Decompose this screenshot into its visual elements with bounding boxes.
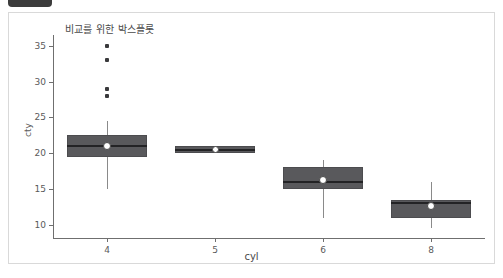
y-axis-title: cty	[23, 123, 33, 137]
x-tick-label: 4	[104, 245, 110, 255]
boxplot-box[interactable]	[53, 35, 485, 239]
y-tick-label: 15	[35, 184, 46, 194]
whisker-upper	[431, 182, 432, 200]
y-tick-label: 30	[35, 77, 46, 87]
y-tick-label: 20	[35, 148, 46, 158]
x-tick-label: 5	[212, 245, 218, 255]
plot-area: 101520253035 4568	[53, 35, 485, 239]
y-tick-label: 35	[35, 41, 46, 51]
x-axis-title: cyl	[9, 251, 494, 262]
whisker-lower	[431, 218, 432, 229]
chart-screenshot: 비교를 위한 박스플롯 cty cyl 101520253035 4568	[0, 0, 503, 278]
x-tick-label: 6	[320, 245, 326, 255]
window-tab[interactable]	[8, 0, 52, 7]
chart-title: 비교를 위한 박스플롯	[65, 21, 155, 36]
y-tick-label: 25	[35, 112, 46, 122]
y-tick-label: 10	[35, 220, 46, 230]
x-tick-label: 8	[428, 245, 434, 255]
plot-panel: 비교를 위한 박스플롯 cty cyl 101520253035 4568	[8, 12, 495, 264]
mean-marker	[427, 202, 435, 210]
